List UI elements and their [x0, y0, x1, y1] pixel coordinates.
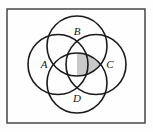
set-label-b: B	[74, 25, 81, 37]
figure-root: A B C D	[0, 0, 153, 132]
set-label-c: C	[106, 58, 114, 70]
set-label-a: A	[40, 58, 48, 70]
venn-diagram: A B C D	[0, 0, 153, 132]
set-label-d: D	[72, 92, 81, 104]
